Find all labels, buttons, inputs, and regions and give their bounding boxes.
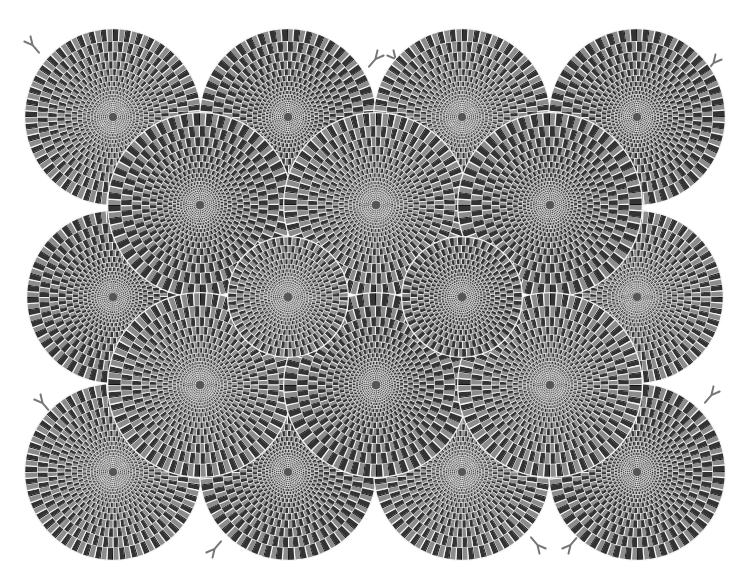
rotating-snakes-illusion [0,0,743,586]
snake-discs [24,28,726,561]
tongue-icon [528,535,546,554]
tongue-icon [206,539,224,558]
tongue-icon [24,36,42,55]
tongue-icon [366,50,384,69]
tongue-icon [702,386,720,405]
snake-disc [227,236,349,358]
snake-disc [401,236,523,358]
